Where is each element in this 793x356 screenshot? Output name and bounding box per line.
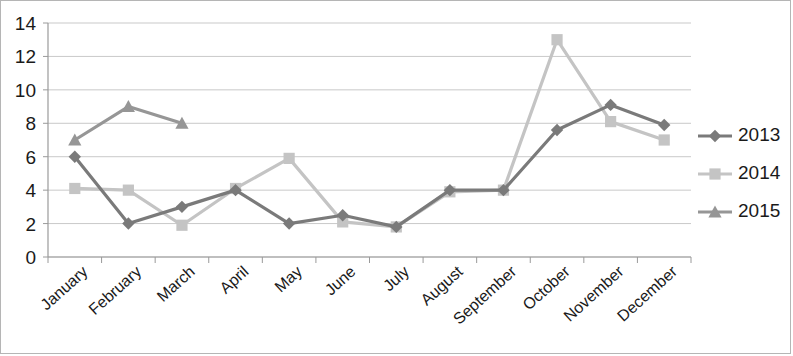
x-axis-tick-label: June (322, 263, 359, 299)
x-axis-tick-label: April (216, 263, 251, 297)
data-point-2013 (176, 201, 188, 213)
series-line-2014 (75, 40, 664, 227)
x-axis-tick-label: March (154, 263, 198, 305)
y-axis-tick-label: 14 (15, 13, 37, 34)
data-point-2014 (605, 116, 616, 127)
x-axis-group: JanuaryFebruaryMarchAprilMayJuneJulyAugu… (37, 257, 691, 328)
legend-label-2014: 2014 (738, 162, 781, 183)
legend: 201320142015 (698, 124, 781, 221)
legend-label-2013: 2013 (738, 124, 780, 145)
x-axis-tick-label: February (85, 263, 144, 318)
legend-marker-2013 (709, 130, 721, 142)
data-point-2014 (69, 183, 80, 194)
data-point-2013 (604, 99, 616, 111)
data-point-2014 (123, 185, 134, 196)
y-axis-tick-label: 10 (15, 80, 36, 101)
line-chart: 02468101214JanuaryFebruaryMarchAprilMayJ… (1, 1, 792, 355)
y-axis-tick-label: 8 (25, 113, 36, 134)
chart-canvas: 02468101214JanuaryFebruaryMarchAprilMayJ… (1, 1, 792, 355)
x-axis-tick-label: July (380, 263, 413, 295)
legend-marker-2014 (709, 168, 720, 179)
y-axis-tick-label: 4 (25, 180, 36, 201)
series-2014 (69, 34, 670, 232)
legend-entry-2015: 2015 (698, 200, 780, 221)
x-axis-tick-label: January (37, 263, 91, 314)
data-point-2015 (68, 133, 81, 145)
legend-entry-2014: 2014 (698, 162, 781, 183)
data-point-2013 (658, 119, 670, 131)
series-2015 (68, 100, 188, 145)
data-point-2014 (659, 134, 670, 145)
x-axis-tick-label: December (614, 262, 681, 324)
y-axis-tick-label: 6 (25, 147, 36, 168)
y-axis-tick-label: 0 (25, 247, 36, 268)
x-axis-tick-label: May (271, 263, 305, 296)
gridlines-group: 02468101214 (15, 13, 691, 268)
legend-entry-2013: 2013 (698, 124, 780, 145)
y-axis-tick-label: 2 (25, 214, 36, 235)
x-axis-tick-label: October (519, 262, 573, 313)
y-axis-tick-label: 12 (15, 46, 36, 67)
series-2013 (69, 99, 671, 233)
chart-figure: 02468101214JanuaryFebruaryMarchAprilMayJ… (0, 0, 791, 354)
x-axis-tick-label: August (417, 262, 466, 308)
data-point-2014 (284, 153, 295, 164)
data-point-2015 (122, 100, 135, 112)
data-point-2014 (176, 220, 187, 231)
legend-label-2015: 2015 (738, 200, 780, 221)
data-point-2014 (551, 34, 562, 45)
